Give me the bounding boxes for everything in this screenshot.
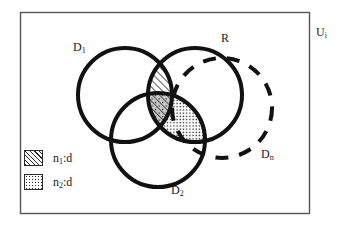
label-universe-sub: i (325, 31, 327, 40)
label-set-Dn-text: D (261, 147, 270, 161)
legend-label-n2: n2:d (53, 176, 72, 188)
label-set-R: R (221, 32, 229, 44)
legend-label-n2-tail: :d (63, 175, 72, 189)
venn-diagram-figure: Ui D1 R D2 Dn n1:d n2:d (0, 0, 348, 229)
label-set-R-text: R (221, 31, 229, 45)
legend-item-n2: n2:d (24, 174, 72, 190)
legend-label-n1-tail: :d (63, 151, 72, 165)
legend-item-n1: n1:d (24, 150, 72, 166)
legend-label-n2-sub: 2 (59, 181, 63, 190)
label-set-Dn-sub: n (270, 153, 274, 162)
legend-label-n1: n1:d (53, 152, 72, 164)
label-set-D2: D2 (171, 184, 184, 196)
label-set-D2-text: D (171, 183, 180, 197)
label-set-D1-sub: 1 (82, 46, 86, 55)
legend-swatch-hatch-icon (24, 150, 43, 166)
label-universe: Ui (316, 26, 327, 38)
label-set-D2-sub: 2 (180, 189, 184, 198)
legend-swatch-dots-icon (24, 174, 43, 190)
label-set-D1-text: D (73, 40, 82, 54)
legend-label-n1-sub: 1 (59, 157, 63, 166)
label-set-Dn: Dn (261, 148, 274, 160)
triple-overlap-region (40, 0, 280, 229)
label-universe-text: U (316, 25, 325, 39)
label-set-D1: D1 (73, 41, 86, 53)
